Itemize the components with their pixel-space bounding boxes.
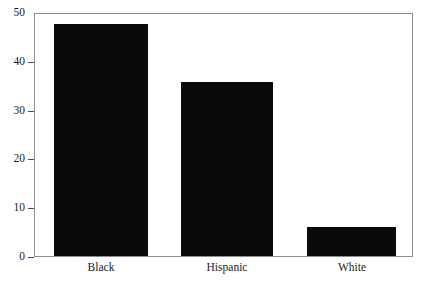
y-tick-label-20: 20: [14, 154, 26, 166]
y-tick-label-10: 10: [14, 202, 26, 214]
x-tick-label-hispanic: Hispanic: [207, 262, 248, 274]
y-tick-label-40: 40: [14, 56, 26, 68]
x-tick-label-black: Black: [88, 262, 115, 274]
plot-area: [34, 13, 413, 257]
y-tick-label-30: 30: [14, 105, 26, 117]
bar-hispanic: [181, 82, 273, 256]
bar-white: [307, 227, 396, 256]
bar-black: [54, 24, 148, 256]
y-tick-label-0: 0: [19, 251, 25, 263]
y-tick-mark-0: [28, 257, 34, 258]
bar-chart: 0 10 20 30 40 50 Black Hispanic White: [0, 0, 425, 293]
y-tick-label-50: 50: [14, 7, 26, 19]
x-tick-label-white: White: [338, 262, 366, 274]
